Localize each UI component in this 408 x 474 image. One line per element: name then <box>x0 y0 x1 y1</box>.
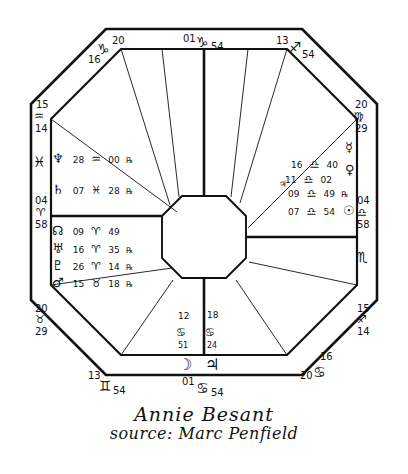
cusp-h8-deg: 04 <box>357 196 370 206</box>
moon-sign: ♋ <box>176 327 186 338</box>
sun-sign: ♎ <box>307 205 317 218</box>
moon-degree: 12 <box>178 312 189 321</box>
cusp-h11-sign: ♑ <box>196 35 209 49</box>
sun-icon: ☉ <box>343 203 355 218</box>
mercury-minute: 40 <box>327 160 338 170</box>
pluto-retrograde-icon: ℞ <box>126 263 133 272</box>
pluto-minute: 14 <box>108 262 119 272</box>
planet-row-mars: ♂ 15 ♉ 18 ℞ <box>52 274 133 290</box>
cusp-h8-min: 58 <box>357 220 370 230</box>
planet-row-jupiter: 09 ♎ 49 ℞ <box>288 184 348 200</box>
cusp-h6-sign: ♋ <box>313 365 326 379</box>
cusp-h12-min: 20 <box>112 36 125 46</box>
saturn-icon: ♄ <box>52 182 64 197</box>
north-node-sign: ♈ <box>91 225 101 238</box>
saturn-retrograde-icon: ℞ <box>126 187 133 196</box>
cusp-h5-deg: 01 <box>182 377 195 387</box>
saturn-sign: ♓ <box>91 184 101 197</box>
cusp-h11-deg: 01 <box>183 34 196 44</box>
jupiter-retrograde-icon: ℞ <box>341 190 348 199</box>
planet-row-pluto: ♇ 26 ♈ 14 ℞ <box>52 257 133 273</box>
cusp-ic-sign: ♊ <box>99 379 112 393</box>
cusp-h6-deg: 16 <box>320 352 333 362</box>
pluto-icon: ♇ <box>52 258 64 273</box>
north-node-minute: 49 <box>108 227 119 237</box>
cusp-h12-deg: 16 <box>88 55 101 65</box>
planet-row-uranus: ♅ 16 ♈ 35 ℞ <box>52 240 133 256</box>
planet-row-north-node: ☊ 09 ♈ 49 <box>52 222 120 238</box>
cusp-dsc-sign: ♐ <box>357 314 367 325</box>
cusp-mc-min: 54 <box>302 50 315 60</box>
cusp-mc-sign: ♐ <box>289 40 302 54</box>
neptune-retrograde-icon: ℞ <box>126 156 133 165</box>
jupiter-lower-sign: ♋ <box>205 327 215 338</box>
uranus-retrograde-icon: ℞ <box>126 246 133 255</box>
cusp-h9-deg: 20 <box>355 100 368 110</box>
saturn-minute: 28 <box>108 186 119 196</box>
jupiter-minute: 49 <box>324 189 335 199</box>
neptune-sign: ♒ <box>91 153 101 166</box>
mars-retrograde-icon: ℞ <box>126 280 133 289</box>
moon-minute: 51 <box>178 342 188 350</box>
cusp-h5-min: 54 <box>211 388 224 398</box>
neptune-minute: 00 <box>108 155 119 165</box>
mercury-icon: ☿ <box>345 141 353 154</box>
uranus-sign: ♈ <box>91 243 101 256</box>
jupiter-degree: 09 <box>288 189 299 199</box>
cusp-asc-deg: 15 <box>36 100 49 110</box>
cusp-h8-sign: ♎ <box>357 207 367 218</box>
horoscope-chart: ♑ 20 16 01 ♑ 54 13 ♐ 54 15 ♒ 14 ♓ 04 ♈ 5… <box>0 0 408 474</box>
cusp-h11-min: 54 <box>211 42 224 52</box>
planet-row-sun: 07 ♎ 54 ☉ <box>288 202 355 218</box>
venus-icon: ♀ <box>345 163 355 176</box>
cusp-ic-min: 54 <box>113 386 126 396</box>
cusp-h2-deg: 04 <box>35 196 48 206</box>
mars-minute: 18 <box>108 279 119 289</box>
neptune-degree: 28 <box>73 155 84 165</box>
planet-row-neptune: ♆ 28 ♒ 00 ℞ <box>52 150 133 166</box>
pluto-sign: ♈ <box>91 260 101 273</box>
mars-sign: ♉ <box>91 277 101 290</box>
cusp-h2-min: 58 <box>35 220 48 230</box>
intercepted-sign-scorpio: ♏ <box>355 250 368 264</box>
cusp-mc-deg: 13 <box>276 36 289 46</box>
sun-degree: 07 <box>288 207 299 217</box>
saturn-degree: 07 <box>73 186 84 196</box>
chart-subject-name: Annie Besant <box>0 404 408 425</box>
sun-minute: 54 <box>324 207 335 217</box>
cusp-h9-min: 29 <box>355 124 368 134</box>
cusp-h5-sign: ♋ <box>196 381 209 395</box>
jupiter-lower-degree: 18 <box>207 311 218 320</box>
uranus-degree: 16 <box>73 245 84 255</box>
mars-icon: ♂ <box>52 275 64 290</box>
planet-row-saturn: ♄ 07 ♓ 28 ℞ <box>52 181 133 197</box>
cusp-h3-sign: ♉ <box>35 314 45 325</box>
north-node-degree: 09 <box>73 227 84 237</box>
cusp-h6-min: 20 <box>300 371 313 381</box>
jupiter-sign: ♎ <box>307 187 317 200</box>
pluto-degree: 26 <box>73 262 84 272</box>
cusp-asc-min: 14 <box>35 124 48 134</box>
uranus-icon: ♅ <box>52 241 64 256</box>
jupiter-lower-minute: 24 <box>207 342 217 350</box>
cusp-dsc-min: 14 <box>357 327 370 337</box>
moon-icon: ☽ <box>178 357 192 373</box>
north-node-icon: ☊ <box>52 223 64 238</box>
chart-source-line: source: Marc Penfield <box>0 425 408 443</box>
cusp-asc-sign: ♒ <box>34 111 44 122</box>
neptune-icon: ♆ <box>52 151 64 166</box>
cusp-h2-sign: ♈ <box>36 207 46 218</box>
chart-caption: Annie Besant source: Marc Penfield <box>0 404 408 443</box>
intercepted-sign-pisces: ♓ <box>33 155 46 169</box>
jupiter-icon: ♃ <box>279 180 287 189</box>
cusp-h9-sign: ♍ <box>354 111 364 122</box>
cusp-h3-min: 29 <box>35 327 48 337</box>
jupiter-lower-icon: ♃ <box>205 357 219 373</box>
mars-degree: 15 <box>73 279 84 289</box>
uranus-minute: 35 <box>108 245 119 255</box>
center-octagon <box>162 196 246 278</box>
